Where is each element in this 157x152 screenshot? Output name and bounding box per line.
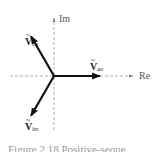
phasor-bn — [31, 76, 54, 116]
figure-caption: Figure 2.18 Positive-seque — [8, 143, 126, 152]
phasor-label-an: ~Van — [90, 62, 103, 72]
imag-axis-label: Im — [59, 14, 70, 24]
phasor-diagram — [0, 0, 157, 152]
phasor-label-cn: ~Vcn — [25, 37, 38, 47]
phasor-label-bn: ~Vbn — [25, 122, 38, 132]
real-axis-label: Re — [139, 71, 150, 81]
